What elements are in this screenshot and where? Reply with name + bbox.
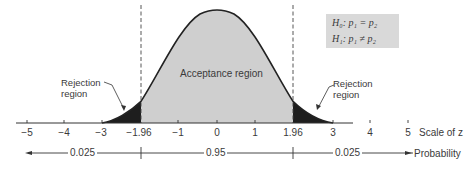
probability-right-arrowhead: [405, 151, 412, 155]
probability-right-value: 0.025: [333, 147, 362, 158]
left-rejection-arrowhead: [121, 105, 126, 111]
probability-label: Probability: [414, 148, 461, 159]
tick-label: −4: [58, 127, 69, 138]
alternative-hypothesis: H₁: p₁ ≠ p₂: [332, 33, 376, 44]
tick-label: 4: [367, 127, 373, 138]
probability-left-arrowhead: [25, 151, 32, 155]
acceptance-region-label: Acceptance region: [180, 68, 263, 79]
probability-left-value: 0.025: [68, 147, 97, 158]
tick-label: 0: [214, 127, 220, 138]
tick-label: 3: [330, 127, 336, 138]
tick-label: 1: [252, 127, 258, 138]
tick-label: −1: [172, 127, 183, 138]
tick-label: −3: [95, 127, 106, 138]
right-rejection-label-line1: Rejection: [333, 78, 373, 89]
z-axis-label: Scale of z: [419, 127, 463, 138]
left-rejection-label-line2: region: [61, 88, 87, 99]
right-rejection-arrowhead: [316, 104, 321, 110]
right-rejection-pointer: [318, 85, 334, 108]
tick-label: −5: [21, 127, 32, 138]
hypothesis-box: H₀: p₁ = p₂ H₁: p₁ ≠ p₂: [326, 14, 399, 48]
tick-label: 5: [405, 127, 411, 138]
left-rejection-label-line1: Rejection: [61, 77, 101, 88]
probability-middle-value: 0.95: [204, 147, 227, 158]
acceptance-region-fill: [141, 10, 293, 123]
tick-label: −1.96: [126, 127, 151, 138]
left-rejection-pointer: [104, 82, 124, 109]
tick-label: 1.96: [283, 127, 302, 138]
null-hypothesis: H₀: p₁ = p₂: [332, 17, 377, 28]
right-rejection-label-line2: region: [333, 89, 359, 100]
normal-distribution-diagram: H₀: p₁ = p₂ H₁: p₁ ≠ p₂ Acceptance regio…: [0, 0, 476, 173]
right-rejection-region-fill: [293, 101, 333, 123]
